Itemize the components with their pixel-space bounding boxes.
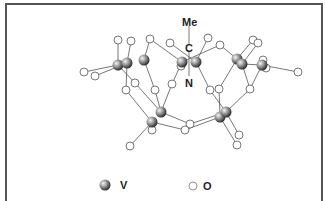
- label-me: Me: [182, 16, 197, 28]
- legend: V O: [100, 179, 213, 192]
- vanadium-atoms: [113, 54, 268, 128]
- oxygen-legend-icon: [189, 182, 197, 190]
- legend-label-o: O: [203, 180, 212, 192]
- label-n: N: [185, 77, 193, 89]
- vanadium-legend-icon: [100, 180, 111, 191]
- polyoxovanadate-structure: Me C N V O: [0, 0, 325, 201]
- label-c: C: [185, 42, 193, 54]
- legend-label-v: V: [120, 179, 128, 191]
